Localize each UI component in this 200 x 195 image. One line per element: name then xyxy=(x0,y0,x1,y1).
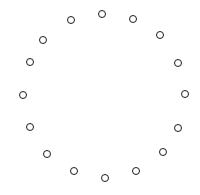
circle-node-11 xyxy=(43,150,51,158)
ring-of-circles-diagram xyxy=(0,0,200,195)
circle-node-6 xyxy=(174,124,182,132)
circle-node-2 xyxy=(129,15,137,23)
circle-node-13 xyxy=(19,91,27,99)
circle-node-8 xyxy=(132,167,140,175)
circle-node-1 xyxy=(98,10,106,18)
circle-node-4 xyxy=(174,59,182,67)
circle-node-5 xyxy=(181,90,189,98)
circle-node-15 xyxy=(39,36,47,44)
circle-node-7 xyxy=(159,148,167,156)
circle-node-10 xyxy=(70,167,78,175)
circle-node-3 xyxy=(156,31,164,39)
circle-node-9 xyxy=(101,174,109,182)
circle-node-12 xyxy=(26,123,34,131)
circle-node-14 xyxy=(26,58,34,66)
circle-node-16 xyxy=(67,16,75,24)
